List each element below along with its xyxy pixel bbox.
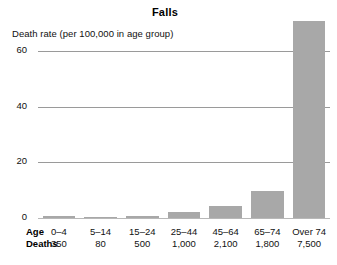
age-cell-6: Over 74 (286, 226, 332, 237)
deaths-cell-5: 1,800 (245, 238, 291, 249)
y-tick-label-20: 20 (3, 155, 27, 166)
gridline-0 (38, 218, 330, 219)
age-cell-5: 65–74 (245, 226, 291, 237)
age-cell-0: 0–4 (36, 226, 82, 237)
data-table: Age Deaths 0–45–1415–2425–4445–6465–74Ov… (0, 226, 337, 258)
deaths-cell-1: 80 (78, 238, 124, 249)
deaths-cell-4: 2,100 (203, 238, 249, 249)
falls-bar-chart: Falls Death rate (per 100,000 in age gro… (0, 0, 337, 265)
y-tick-label-60: 60 (3, 44, 27, 55)
bar-5-14 (84, 217, 117, 219)
deaths-cell-6: 7,500 (286, 238, 332, 249)
age-cell-3: 25–44 (161, 226, 207, 237)
bar-over-74 (293, 21, 326, 218)
bar-25-44 (168, 212, 201, 218)
bars-group (38, 18, 330, 218)
chart-title: Falls (0, 6, 330, 18)
y-tick-label-40: 40 (3, 100, 27, 111)
age-cell-4: 45–64 (203, 226, 249, 237)
bar-0-4 (43, 216, 76, 218)
bar-45-64 (209, 206, 242, 218)
y-tick-label-0: 0 (3, 211, 27, 222)
deaths-cell-3: 1,000 (161, 238, 207, 249)
age-cell-2: 15–24 (119, 226, 165, 237)
bar-65-74 (251, 191, 284, 218)
age-cell-1: 5–14 (78, 226, 124, 237)
deaths-cell-2: 500 (119, 238, 165, 249)
deaths-cell-0: 350 (36, 238, 82, 249)
bar-15-24 (126, 216, 159, 218)
